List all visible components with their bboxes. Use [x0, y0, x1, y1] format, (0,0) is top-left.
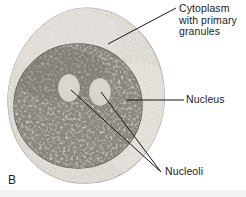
figure-panel: Cytoplasm with primary granules Nucleus …	[0, 0, 246, 197]
label-nucleus: Nucleus	[186, 94, 225, 106]
label-nucleoli: Nucleoli	[165, 166, 203, 178]
panel-letter: B	[8, 173, 16, 187]
label-cytoplasm: Cytoplasm with primary granules	[179, 3, 237, 38]
bottom-band	[0, 190, 246, 197]
